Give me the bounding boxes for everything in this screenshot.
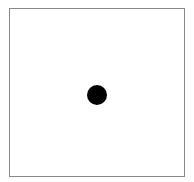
canvas bbox=[0, 0, 194, 182]
black-dot bbox=[87, 85, 107, 105]
